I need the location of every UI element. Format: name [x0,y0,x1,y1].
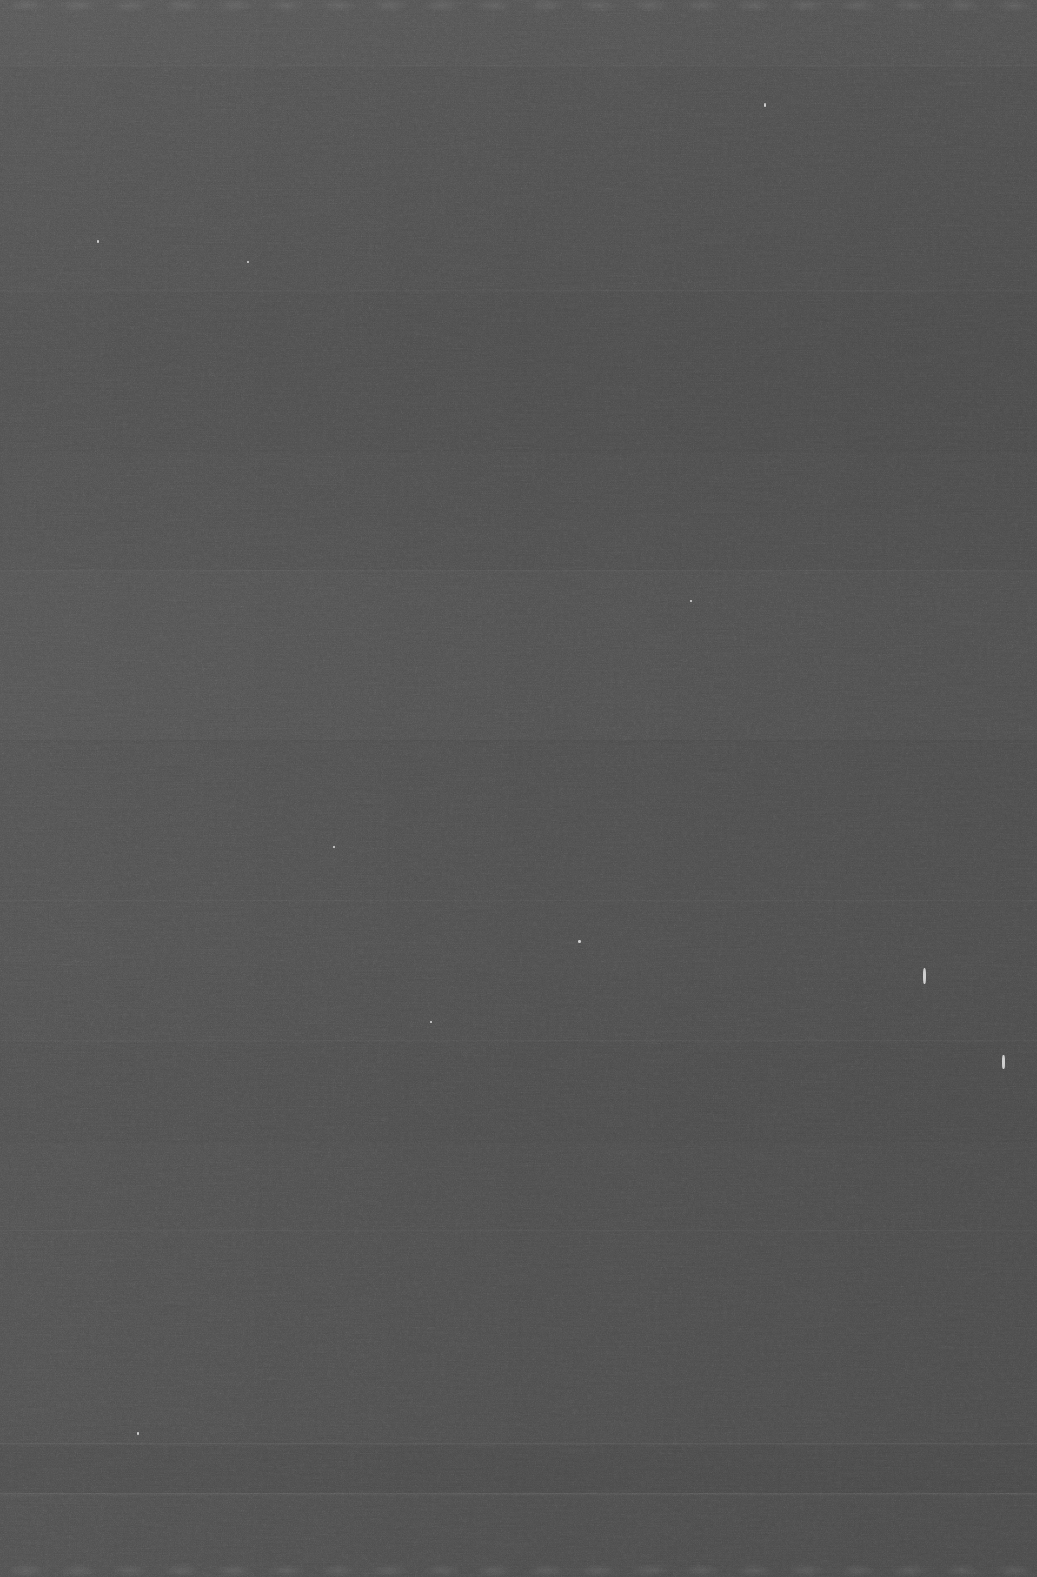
vertical-gradient-overlay [0,0,1037,1577]
image-canvas: Essentially featureless dark gray frame … [0,0,1037,1577]
